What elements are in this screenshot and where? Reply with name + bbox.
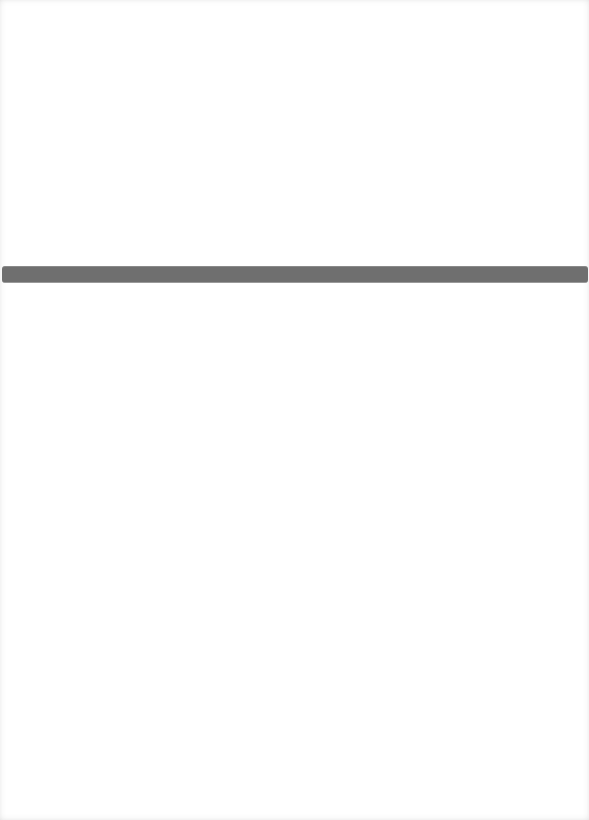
blank-document-page — [0, 0, 589, 820]
horizontal-divider-bar — [2, 266, 588, 283]
